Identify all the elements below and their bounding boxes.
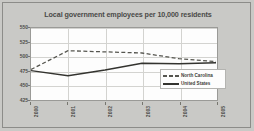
x-axis-tick (142, 102, 143, 105)
legend-item-united-states: United States (163, 80, 223, 88)
x-axis-tick (105, 102, 106, 105)
x-axis: 200020012002200320042005 (30, 102, 218, 128)
plot-area (30, 27, 218, 101)
legend-item-north-carolina: North Carolina (163, 72, 223, 80)
x-axis-tick-label: 2003 (145, 106, 151, 117)
chart-title: Local government employees per 10,000 re… (28, 10, 228, 19)
chart-figure: Local government employees per 10,000 re… (0, 0, 254, 131)
x-axis-tick-label: 2001 (70, 106, 76, 117)
y-axis-tick-label: 450 (2, 82, 28, 88)
x-axis-tick (217, 102, 218, 105)
y-axis-tick-label: 525 (2, 39, 28, 45)
y-axis-tick-label: 475 (2, 68, 28, 74)
x-axis-tick-label: 2005 (220, 106, 226, 117)
legend-label-united-states: United States (181, 80, 210, 88)
x-axis-tick-label: 2004 (182, 106, 188, 117)
legend-swatch-solid-icon (163, 83, 179, 85)
y-axis-tick-label: 500 (2, 53, 28, 59)
x-axis-tick (67, 102, 68, 105)
y-axis-tick-label: 425 (2, 97, 28, 103)
y-axis: 550525500475450425 (0, 27, 28, 101)
x-axis-tick-label: 2002 (107, 106, 113, 117)
series-container (31, 28, 217, 100)
chart-legend: North Carolina United States (160, 69, 226, 89)
x-axis-tick (180, 102, 181, 105)
legend-label-north-carolina: North Carolina (181, 72, 213, 80)
y-axis-tick-label: 550 (2, 24, 28, 30)
x-axis-tick-label: 2000 (33, 106, 39, 117)
legend-swatch-dashed-icon (163, 75, 179, 77)
x-axis-tick (30, 102, 31, 105)
